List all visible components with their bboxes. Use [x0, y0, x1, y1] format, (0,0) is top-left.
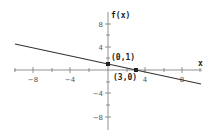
y-tick-label: −8	[93, 114, 103, 122]
function-plot: −8 −4 4 8 8 4 −4 −8 f(x) x (0,1) (3,0)	[0, 0, 214, 136]
x-axis-title: x	[198, 59, 203, 68]
y-tick-label: 4	[99, 44, 104, 52]
point-marker-3-0	[134, 68, 138, 72]
point-marker-0-1	[106, 62, 110, 66]
x-tick-label: −4	[65, 76, 76, 84]
x-tick-label: −8	[28, 76, 38, 84]
y-tick-label: 8	[99, 21, 103, 29]
x-tick-label: 4	[143, 76, 148, 84]
y-tick-label: −4	[93, 90, 104, 98]
point-label-0-1: (0,1)	[111, 53, 135, 62]
point-label-3-0: (3,0)	[113, 73, 137, 82]
y-axis-title: f(x)	[111, 11, 130, 20]
